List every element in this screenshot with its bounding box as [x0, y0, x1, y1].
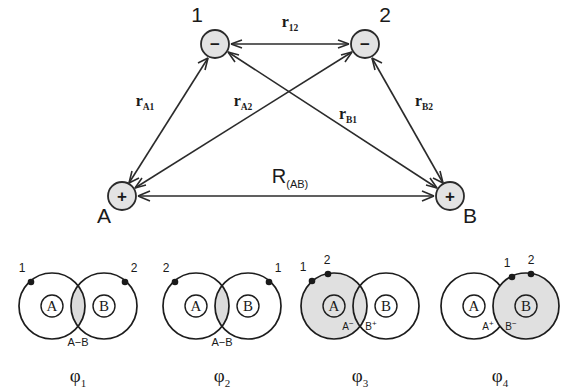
phi4-electron-dot-2 [528, 271, 535, 278]
electron-2-label: 2 [379, 3, 391, 26]
phi1-dot-label-left: 1 [19, 261, 26, 275]
phi1-name: φ1 [70, 365, 86, 389]
nucleus-b-label: B [463, 204, 477, 227]
coordinate-nodes: − 1 − 2 + A + B [97, 3, 477, 227]
edge-rB1 [228, 52, 437, 188]
edge-RAB [138, 191, 434, 201]
phi2-atom-b-letter: B [243, 298, 253, 314]
phi2-overlap-lens [215, 286, 229, 327]
phi2-dot-label-right: 1 [275, 261, 282, 275]
edge-rA1 [129, 58, 208, 183]
structure-phi1: A B 1 2 A−B φ1 [19, 261, 138, 389]
label-RAB: R(AB) [272, 165, 308, 190]
phi2-bond-label: A−B [211, 336, 232, 348]
phi4-dot-label-2: 2 [528, 253, 535, 267]
edge-rB2 [372, 58, 443, 183]
electron-2-sign: − [360, 35, 370, 54]
node-electron-1: − 1 [191, 3, 229, 58]
node-electron-2: − 2 [351, 3, 391, 58]
electron-1-label: 1 [191, 3, 203, 26]
nucleus-b-sign: + [445, 187, 455, 206]
structure-phi2: A B 2 1 A−B φ2 [163, 261, 282, 389]
phi2-electron-dot-right [266, 279, 273, 286]
phi2-atom-a-letter: A [191, 298, 202, 314]
phi4-atom-a-letter: A [469, 298, 480, 314]
phi1-atom-b-letter: B [99, 298, 109, 314]
phi1-electron-dot-right [122, 279, 129, 286]
phi4-atom-b-letter: B [521, 298, 531, 314]
phi2-electron-dot-left [172, 279, 179, 286]
phi3-dot-label-2: 2 [324, 253, 331, 267]
phi3-electron-dot-2 [325, 271, 332, 278]
phi4-electron-dot-1 [509, 274, 516, 281]
phi4-dot-label-1: 1 [504, 256, 511, 270]
phi3-charge-b: B+ [365, 319, 377, 332]
diagram-svg: − 1 − 2 + A + B r12 [0, 0, 575, 392]
phi3-name: φ3 [352, 365, 369, 389]
structure-phi4: A B 1 2 A+ B− φ4 [441, 253, 559, 389]
phi2-dot-label-left: 2 [163, 261, 170, 275]
label-rA2: rA2 [234, 92, 253, 112]
phi1-electron-dot-left [28, 279, 35, 286]
edge-r12 [231, 40, 349, 48]
phi3-electron-dot-1 [309, 278, 316, 285]
phi3-atom-b-letter: B [381, 298, 391, 314]
phi1-dot-label-right: 2 [131, 261, 138, 275]
nucleus-a-label: A [97, 204, 111, 227]
phi1-overlap-lens [71, 286, 85, 327]
phi1-bond-label: A−B [67, 336, 88, 348]
structure-phi3: A B 1 2 A− B+ φ3 [300, 253, 419, 389]
label-r12: r12 [282, 13, 299, 33]
node-nucleus-a: + A [97, 182, 136, 227]
phi4-charge-a: A+ [482, 319, 494, 332]
label-rB2: rB2 [415, 92, 433, 112]
phi3-atom-a-letter: A [329, 298, 340, 314]
phi3-dot-label-1: 1 [300, 260, 307, 274]
label-rA1: rA1 [136, 92, 155, 112]
phi2-name: φ2 [214, 365, 230, 389]
electron-1-sign: − [210, 35, 220, 54]
label-rB1: rB1 [339, 105, 357, 125]
edge-rA2 [135, 52, 352, 188]
phi1-atom-a-letter: A [47, 298, 58, 314]
node-nucleus-b: + B [436, 182, 477, 227]
figure-canvas: − 1 − 2 + A + B r12 [0, 0, 575, 392]
phi4-name: φ4 [492, 365, 509, 389]
nucleus-a-sign: + [117, 187, 127, 206]
